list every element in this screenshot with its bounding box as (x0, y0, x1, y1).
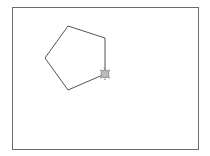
turtle-icon (100, 67, 110, 80)
pentagon-shape (45, 26, 105, 90)
drawing-layer (0, 0, 210, 156)
